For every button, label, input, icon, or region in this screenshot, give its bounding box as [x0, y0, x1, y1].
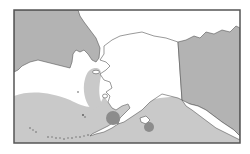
map-container: [0, 0, 250, 154]
location-marker-large: [106, 111, 120, 125]
alaska-map: [0, 0, 250, 154]
location-marker-small: [144, 122, 154, 132]
nunivak-island: [103, 94, 108, 98]
pribilof-island: [84, 116, 85, 117]
st-matthew-island: [77, 91, 79, 93]
pribilof-island: [82, 114, 84, 116]
st-lawrence-island: [93, 70, 100, 74]
